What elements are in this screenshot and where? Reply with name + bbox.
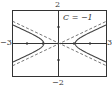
c-value-annotation: C = −1 [63, 14, 93, 22]
y-max-label: 2 [55, 1, 60, 9]
y-min-label: −2 [52, 79, 64, 87]
hyperbola-plot [0, 0, 112, 88]
x-min-label: −3 [0, 39, 12, 47]
x-max-label: 3 [107, 39, 112, 47]
